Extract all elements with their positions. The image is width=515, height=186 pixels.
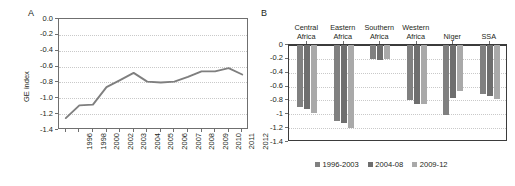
bar [297, 45, 303, 107]
y-tick-label: 0.0 [24, 14, 53, 23]
bar [443, 45, 449, 115]
y-tick-mark [285, 99, 288, 100]
y-tick-mark [55, 81, 58, 82]
legend-swatch-icon [368, 162, 373, 167]
bar [311, 45, 317, 113]
gridline [289, 100, 506, 101]
x-tick-label: 2009 [220, 133, 229, 150]
x-tick-label: 2005 [166, 133, 175, 150]
y-tick-label: -1.2 [257, 123, 283, 132]
x-tick-mark [214, 129, 215, 132]
y-tick-mark [55, 129, 58, 130]
x-tick-label: 2002 [125, 133, 134, 150]
bar [348, 45, 354, 128]
gridline [289, 128, 506, 129]
y-tick-label: 0 [257, 40, 283, 49]
x-tick-label: 2011 [247, 133, 256, 149]
bar [414, 45, 420, 104]
legend-label: 2009-12 [420, 160, 448, 169]
x-tick-mark [65, 129, 66, 132]
x-tick-mark [146, 129, 147, 132]
y-tick-mark [55, 66, 58, 67]
y-tick-label: -1.0 [24, 93, 53, 102]
y-tick-mark [285, 86, 288, 87]
x-tick-mark [92, 129, 93, 132]
x-tick-label: 2008 [207, 133, 216, 150]
y-tick-mark [285, 58, 288, 59]
x-tick-mark [306, 41, 307, 44]
bar [450, 45, 456, 98]
y-tick-mark [55, 18, 58, 19]
x-tick-mark [489, 41, 490, 44]
panel-b-plot-area [288, 44, 507, 141]
bar [341, 45, 347, 123]
x-tick-label: 2004 [153, 133, 162, 150]
x-tick-label: 2007 [193, 133, 202, 150]
y-tick-label: -1.4 [24, 125, 53, 134]
y-tick-label: -0.2 [24, 29, 53, 38]
bar [370, 45, 376, 59]
bar [377, 45, 383, 60]
gridline [289, 87, 506, 88]
legend-swatch-icon [315, 162, 320, 167]
bar [480, 45, 486, 94]
panel-a-line-series [59, 19, 249, 130]
x-tick-mark [160, 129, 161, 132]
y-tick-label: -0.8 [257, 95, 283, 104]
x-tick-mark [173, 129, 174, 132]
y-tick-mark [285, 113, 288, 114]
gridline [289, 73, 506, 74]
x-tick-mark [379, 41, 380, 44]
gridline [289, 114, 506, 115]
y-tick-label: -0.8 [24, 77, 53, 86]
x-tick-mark [187, 129, 188, 132]
x-tick-mark [228, 129, 229, 132]
x-tick-label: 2000 [112, 133, 121, 150]
x-tick-mark [78, 129, 79, 132]
x-tick-mark [106, 129, 107, 132]
legend-label: 1996-2003 [323, 160, 359, 169]
x-tick-label: 2003 [139, 133, 148, 150]
y-tick-label: -1 [257, 109, 283, 118]
panel-b-letter: B [261, 8, 267, 18]
y-tick-mark [285, 127, 288, 128]
panel-a-plot-area [58, 18, 248, 129]
y-tick-label: -1.4 [257, 137, 283, 146]
legend-item: 2009-12 [412, 160, 447, 169]
y-tick-mark [55, 50, 58, 51]
y-tick-label: -0.4 [24, 45, 53, 54]
y-tick-mark [55, 34, 58, 35]
y-tick-label: -0.6 [24, 61, 53, 70]
x-tick-mark [201, 129, 202, 132]
x-tick-mark [343, 41, 344, 44]
bar [304, 45, 310, 109]
x-tick-label: 2010 [234, 133, 243, 150]
x-tick-mark [119, 129, 120, 132]
x-tick-label: 1998 [98, 133, 107, 150]
bar [334, 45, 340, 121]
bar [421, 45, 427, 104]
bar [494, 45, 500, 99]
panel-b-legend: 1996-20032004-082009-12 [315, 160, 448, 169]
x-tick-mark [452, 41, 453, 44]
x-tick-mark [416, 41, 417, 44]
legend-item: 1996-2003 [315, 160, 359, 169]
bar [457, 45, 463, 91]
zero-baseline [289, 45, 506, 46]
line-series-path [66, 68, 242, 118]
figure-container: A GE index 0.0-0.2-0.4-0.6-0.8-1.0-1.2-1… [0, 0, 515, 186]
legend-item: 2004-08 [368, 160, 403, 169]
y-tick-mark [285, 72, 288, 73]
x-tick-mark [133, 129, 134, 132]
bar [384, 45, 390, 59]
y-tick-mark [285, 44, 288, 45]
y-tick-mark [55, 97, 58, 98]
y-tick-mark [55, 113, 58, 114]
y-tick-label: -1.2 [24, 109, 53, 118]
bar [487, 45, 493, 96]
x-tick-label: 2006 [180, 133, 189, 150]
x-tick-mark [241, 129, 242, 132]
gridline [289, 59, 506, 60]
x-tick-label: 1996 [85, 133, 94, 150]
legend-swatch-icon [412, 162, 417, 167]
